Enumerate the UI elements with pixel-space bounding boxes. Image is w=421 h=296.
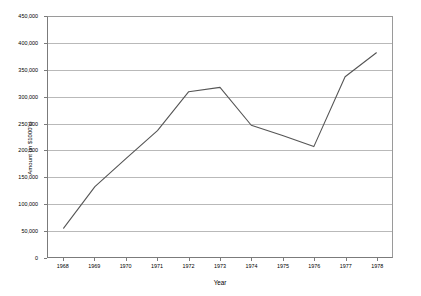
line-chart: Amount (in $1000's) 050,000100,000150,00… xyxy=(0,0,421,296)
x-tick-mark xyxy=(63,258,64,261)
x-tick-mark xyxy=(220,258,221,261)
y-tick-label: 300,000 xyxy=(18,94,38,100)
x-tick-mark xyxy=(157,258,158,261)
y-tick-label: 450,000 xyxy=(18,13,38,19)
y-tick-mark xyxy=(44,16,47,17)
y-axis-tick-labels: 050,000100,000150,000200,000250,000300,0… xyxy=(0,0,44,296)
x-tick-label: 1977 xyxy=(340,263,352,270)
x-tick-label: 1972 xyxy=(183,263,195,270)
x-tick-label: 1975 xyxy=(277,263,289,270)
x-tick-label: 1976 xyxy=(308,263,320,270)
y-tick-label: 100,000 xyxy=(18,201,38,207)
y-axis-title: Amount (in $1000's) xyxy=(27,121,34,175)
plot-area xyxy=(47,16,393,258)
x-tick-label: 1978 xyxy=(371,263,383,270)
data-series-line xyxy=(48,17,392,257)
y-tick-mark xyxy=(44,70,47,71)
x-tick-label: 1974 xyxy=(245,263,257,270)
y-tick-mark xyxy=(44,43,47,44)
y-tick-mark xyxy=(44,204,47,205)
x-tick-mark xyxy=(94,258,95,261)
x-tick-mark xyxy=(377,258,378,261)
x-tick-mark xyxy=(314,258,315,261)
y-tick-mark xyxy=(44,97,47,98)
y-tick-label: 0 xyxy=(35,255,38,261)
x-tick-mark xyxy=(251,258,252,261)
x-axis-title: Year xyxy=(47,279,393,287)
y-tick-mark xyxy=(44,231,47,232)
y-tick-mark xyxy=(44,124,47,125)
x-tick-label: 1973 xyxy=(214,263,226,270)
x-tick-mark xyxy=(346,258,347,261)
x-tick-mark xyxy=(283,258,284,261)
y-tick-mark xyxy=(44,150,47,151)
x-tick-label: 1971 xyxy=(151,263,163,270)
y-tick-mark xyxy=(44,177,47,178)
y-tick-label: 400,000 xyxy=(18,40,38,46)
y-tick-label: 150,000 xyxy=(18,174,38,180)
x-tick-label: 1969 xyxy=(88,263,100,270)
y-tick-label: 50,000 xyxy=(21,228,38,234)
y-tick-label: 350,000 xyxy=(18,67,38,73)
x-axis-tick-labels: 1968196919701971197219731974197519761977… xyxy=(47,263,393,273)
series-polyline xyxy=(64,53,377,228)
x-tick-label: 1970 xyxy=(120,263,132,270)
y-tick-mark xyxy=(44,258,47,259)
x-tick-label: 1968 xyxy=(57,263,69,270)
x-tick-mark xyxy=(189,258,190,261)
x-tick-mark xyxy=(126,258,127,261)
